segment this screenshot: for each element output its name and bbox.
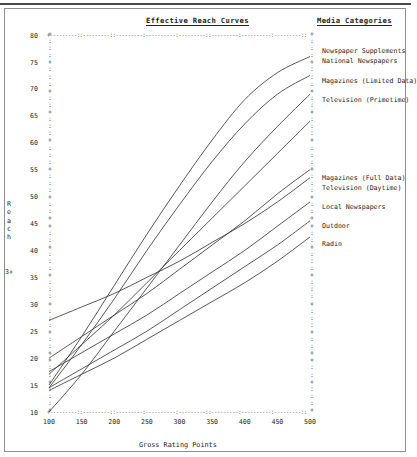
- legend-item-label: Television (Primetime): [322, 96, 409, 104]
- legend-item-label: Outdoor: [322, 222, 350, 230]
- series-line: [49, 94, 310, 412]
- legend-item-label: Magazines (Limited Data): [322, 77, 417, 85]
- legend-item-label: Radio: [322, 240, 342, 248]
- legend-item-label: National Newspapers: [322, 57, 397, 65]
- legend-item-label: Magazines (Full Data): [322, 174, 405, 182]
- series-line: [49, 237, 310, 390]
- legend-item-label: Local Newspapers: [322, 203, 386, 211]
- series-line: [49, 170, 310, 359]
- legend-item-label: Television (Daytime): [322, 184, 401, 192]
- series-line: [49, 202, 310, 372]
- legend-item-label: Newspaper Supplements: [322, 47, 405, 55]
